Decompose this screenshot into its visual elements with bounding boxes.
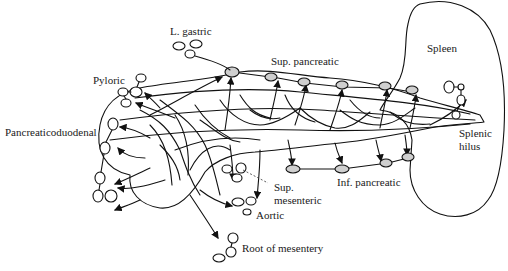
label-sup-pancreatic: Sup. pancreatic (271, 55, 339, 67)
label-splenic-hilus-line2: hilus (459, 140, 480, 152)
label-aortic: Aortic (256, 209, 284, 221)
sup-mesenteric-nodes (222, 163, 268, 183)
label-root-of-mesentery: Root of mesentery (242, 242, 323, 254)
label-pancreaticoduodenal: Pancreaticoduodenal (5, 126, 97, 138)
label-splenic-hilus-line1: Splenic (459, 127, 492, 139)
label-l-gastric: L. gastric (170, 25, 212, 37)
label-sup-mesenteric-line1: Sup. (274, 181, 294, 193)
pancreas-lymphatic-diagram: L. gastric Pyloric Pancreaticoduodenal S… (0, 0, 508, 271)
label-sup-mesenteric-line2: mesenteric (274, 194, 322, 206)
inf-pancreatic-nodes (286, 153, 414, 173)
splenic-hilus-nodes (444, 81, 465, 119)
label-inf-pancreatic: Inf. pancreatic (337, 176, 401, 188)
label-spleen: Spleen (427, 42, 457, 54)
label-pyloric: Pyloric (93, 74, 125, 86)
aortic-nodes (232, 197, 256, 215)
l-gastric-nodes (173, 40, 230, 70)
root-of-mesentery-nodes (213, 233, 238, 262)
